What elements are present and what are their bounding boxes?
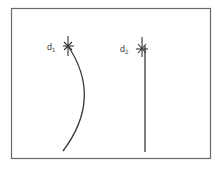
- path-d2: d2: [120, 37, 148, 152]
- curve-d1: [63, 46, 84, 151]
- label-d2: d2: [120, 44, 129, 55]
- diagram-svg: d1 d2: [0, 0, 222, 173]
- star-marker-icon: [136, 37, 148, 57]
- label-d1: d1: [47, 42, 56, 53]
- diagram-canvas: d1 d2: [0, 0, 222, 173]
- path-d1: d1: [47, 36, 84, 151]
- frame-border: [12, 9, 211, 159]
